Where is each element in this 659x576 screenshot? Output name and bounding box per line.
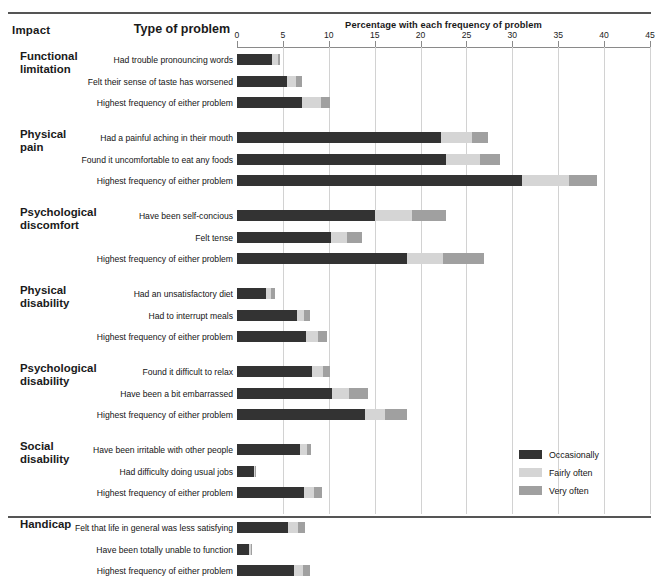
bar-row: [237, 444, 311, 455]
bar-segment-very-often: [349, 388, 368, 399]
bar-segment-occasionally: [237, 310, 297, 321]
legend-swatch: [519, 486, 542, 495]
bar-segment-very-often: [385, 409, 407, 420]
gridline: [466, 47, 467, 514]
bar-row: [237, 54, 280, 65]
bar-segment-occasionally: [237, 409, 365, 420]
bar-segment-occasionally: [237, 444, 300, 455]
bar-row: [237, 253, 484, 264]
gridline: [421, 47, 422, 514]
bar-segment-fairly-often: [331, 232, 348, 243]
legend: OccasionallyFairly oftenVery often: [519, 447, 599, 501]
bar-segment-very-often: [251, 544, 252, 555]
bar-row: [237, 487, 322, 498]
x-tick-label: 5: [280, 30, 285, 40]
bar-row: [237, 132, 488, 143]
bar-segment-very-often: [318, 331, 327, 342]
problem-label: Highest frequency of either problem: [13, 254, 233, 264]
x-tick-label: 10: [324, 30, 334, 40]
bar-row: [237, 210, 446, 221]
bar-row: [237, 366, 330, 377]
x-tick-label: 20: [416, 30, 426, 40]
legend-item-fairly-often: Fairly often: [519, 465, 599, 480]
bar-segment-occasionally: [237, 388, 332, 399]
problem-label: Found it difficult to relax: [13, 367, 233, 377]
bar-segment-fairly-often: [365, 409, 384, 420]
bar-row: [237, 409, 407, 420]
bar-segment-occasionally: [237, 366, 312, 377]
bar-segment-very-often: [307, 444, 312, 455]
problem-label: Felt that life in general was less satis…: [13, 523, 233, 533]
bar-segment-very-often: [472, 132, 488, 143]
bar-segment-occasionally: [237, 154, 446, 165]
bar-row: [237, 175, 597, 186]
bar-segment-fairly-often: [304, 487, 314, 498]
problem-label: Felt tense: [13, 233, 233, 243]
bar-segment-occasionally: [237, 175, 522, 186]
bar-segment-occasionally: [237, 132, 441, 143]
x-tick-label: 30: [508, 30, 518, 40]
problem-label: Highest frequency of either problem: [13, 488, 233, 498]
legend-item-occasionally: Occasionally: [519, 447, 599, 462]
bar-segment-occasionally: [237, 76, 287, 87]
legend-label: Very often: [549, 486, 589, 496]
problem-label: Highest frequency of either problem: [13, 410, 233, 420]
bar-row: [237, 288, 275, 299]
problem-label: Have been totally unable to function: [13, 545, 233, 555]
bar-segment-occasionally: [237, 288, 266, 299]
legend-swatch: [519, 468, 542, 477]
bar-segment-fairly-often: [441, 132, 472, 143]
bar-segment-fairly-often: [297, 310, 304, 321]
legend-item-very-often: Very often: [519, 483, 599, 498]
x-tick-label: 40: [599, 30, 609, 40]
bar-row: [237, 388, 368, 399]
problem-label: Have been a bit embarrassed: [13, 389, 233, 399]
bar-segment-very-often: [443, 253, 484, 264]
bar-segment-fairly-often: [288, 522, 297, 533]
bar-segment-very-often: [255, 466, 256, 477]
gridline: [375, 47, 376, 514]
bar-row: [237, 97, 330, 108]
bar-segment-very-often: [323, 366, 329, 377]
x-tick-label: 45: [645, 30, 655, 40]
bar-segment-very-often: [321, 97, 330, 108]
problem-label: Had difficulty doing usual jobs: [13, 467, 233, 477]
gridline: [558, 47, 559, 514]
bar-segment-occasionally: [237, 54, 272, 65]
bar-segment-fairly-often: [312, 366, 323, 377]
bar-segment-occasionally: [237, 544, 249, 555]
x-tick-label: 35: [553, 30, 563, 40]
problem-label: Felt their sense of taste has worsened: [13, 77, 233, 87]
problem-label: Highest frequency of either problem: [13, 176, 233, 186]
bar-row: [237, 522, 305, 533]
problem-label: Had to interrupt meals: [13, 311, 233, 321]
bar-segment-fairly-often: [522, 175, 570, 186]
bar-segment-fairly-often: [375, 210, 413, 221]
bar-segment-fairly-often: [302, 97, 320, 108]
bar-segment-occasionally: [237, 97, 302, 108]
bar-row: [237, 154, 500, 165]
x-tick-label: 15: [370, 30, 380, 40]
bar-row: [237, 232, 362, 243]
bar-segment-occasionally: [237, 253, 407, 264]
x-tick-label: 25: [462, 30, 472, 40]
bar-segment-very-often: [569, 175, 597, 186]
gridline: [650, 47, 651, 514]
bar-segment-very-often: [347, 232, 362, 243]
legend-swatch: [519, 450, 542, 459]
bar-segment-very-often: [314, 487, 322, 498]
bar-row: [237, 565, 310, 576]
legend-label: Occasionally: [549, 450, 599, 460]
gridline: [512, 47, 513, 514]
bar-segment-very-often: [298, 522, 305, 533]
bar-segment-very-often: [278, 54, 280, 65]
bar-row: [237, 544, 252, 555]
problem-label: Have been self-concious: [13, 211, 233, 221]
plot-area: [237, 47, 650, 514]
bar-segment-very-often: [296, 76, 302, 87]
problem-label: Had an unsatisfactory diet: [13, 289, 233, 299]
gridline: [604, 47, 605, 514]
bar-segment-occasionally: [237, 565, 294, 576]
bar-segment-fairly-often: [332, 388, 349, 399]
